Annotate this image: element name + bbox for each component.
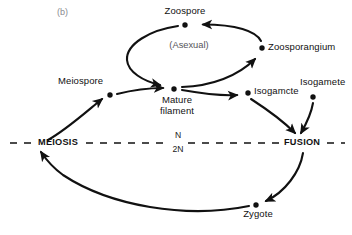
ploidy-label-2n: 2N [173,145,184,154]
node-dot-mature-filament [171,86,176,91]
node-label-zoospore: Zoospore [165,6,206,16]
edge-fusion-to-zygote [266,153,303,201]
node-label-meiospore: Meiospore [58,76,103,86]
diagram-canvas [0,0,352,235]
phase-label-meiosis: MEIOSIS [38,138,78,148]
edge-zygote-to-meiosis [41,152,249,211]
mature-filament-line-1: Mature [162,94,192,105]
edge-zoospore-to-mature-filament [127,26,178,85]
node-label-zygote: Zygote [243,209,273,219]
asexual-annotation: (Asexual) [169,41,208,51]
edge-zoosporangium-to-zoospore [203,25,261,42]
node-dot-zoospore [182,22,187,27]
mature-filament-line-2: filament [160,105,194,116]
node-dot-isogamete [310,94,315,99]
node-label-isogamcte: Isogamcte [254,86,299,96]
life-cycle-diagram: (b) Zoospore Zoosporangium (Asexual) Mei… [0,0,352,235]
node-dot-zygote [253,202,258,207]
edge-mature-filament-to-zoosporangium [182,59,255,87]
node-label-mature-filament: Mature filament [160,95,194,116]
node-dot-meiospore [107,92,112,97]
edge-isogamete-to-fusion [301,103,313,133]
node-label-zoosporangium: Zoosporangium [268,42,335,52]
node-dot-zoosporangium [259,45,264,50]
edge-meiospore-to-mature-filament [117,88,163,94]
ploidy-label-n: N [175,131,181,140]
node-dot-isogamcte [245,90,250,95]
panel-label: (b) [57,8,68,17]
edge-isogamcte-to-fusion [251,99,295,133]
edge-meiosis-to-meiospore [48,99,102,140]
node-label-isogamete: Isogamete [300,77,345,87]
phase-label-fusion: FUSION [284,138,320,148]
